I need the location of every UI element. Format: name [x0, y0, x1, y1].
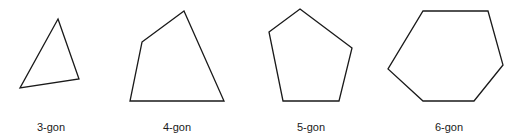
- label-3-gon: 3-gon: [37, 120, 65, 134]
- pentagon-5-gon: [269, 9, 352, 101]
- hexagon-6-gon: [388, 11, 503, 101]
- label-5-gon: 5-gon: [297, 120, 325, 134]
- label-6-gon: 6-gon: [435, 120, 463, 134]
- label-4-gon: 4-gon: [163, 120, 191, 134]
- quadrilateral-4-gon: [130, 11, 224, 101]
- polygon-diagram: 3-gon 4-gon 5-gon 6-gon: [0, 0, 517, 137]
- triangle-3-gon: [20, 19, 79, 88]
- polygons-svg: [0, 0, 517, 137]
